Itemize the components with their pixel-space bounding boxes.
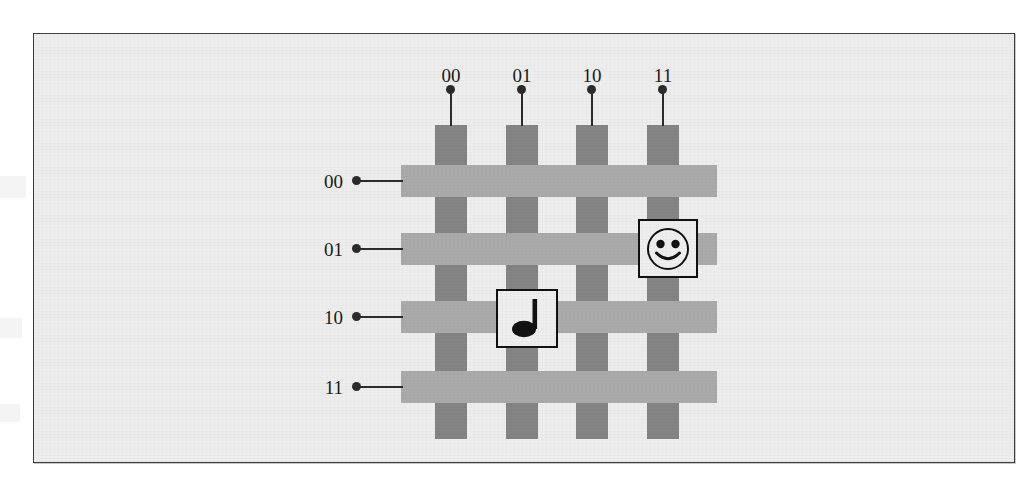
column-label-00: 00 — [421, 66, 481, 85]
row-bar-10 — [401, 301, 717, 333]
row-bar-00 — [401, 165, 717, 197]
bleed-through-text-left-mid — [0, 318, 22, 338]
column-leader-line-00 — [450, 90, 452, 126]
row-label-11: 11 — [299, 378, 343, 397]
row-label-00: 00 — [299, 172, 343, 191]
weave-grid: 00 01 10 11 00 01 10 11 — [34, 34, 1016, 464]
quarter-note-icon-tile[interactable] — [496, 289, 558, 348]
smiley-face-icon — [644, 225, 692, 273]
row-leader-line-01 — [357, 248, 403, 250]
row-leader-line-10 — [357, 316, 403, 318]
row-leader-line-11 — [357, 386, 403, 388]
figure-frame: 00 01 10 11 00 01 10 11 — [33, 33, 1015, 463]
column-label-10: 10 — [562, 66, 622, 85]
smiley-face-icon-tile[interactable] — [638, 219, 698, 278]
quarter-note-icon — [505, 296, 549, 342]
bleed-through-text-left-lower — [0, 404, 20, 422]
row-leader-line-00 — [357, 180, 403, 182]
row-bar-11 — [401, 371, 717, 403]
column-leader-line-01 — [521, 90, 523, 126]
column-label-01: 01 — [492, 66, 552, 85]
scanned-page: 00 01 10 11 00 01 10 11 — [0, 0, 1027, 488]
column-leader-line-11 — [662, 90, 664, 126]
column-label-11: 11 — [633, 66, 693, 85]
row-label-01: 01 — [299, 240, 343, 259]
row-label-10: 10 — [299, 308, 343, 327]
bleed-through-text-left-upper — [0, 176, 26, 198]
column-leader-line-10 — [591, 90, 593, 126]
